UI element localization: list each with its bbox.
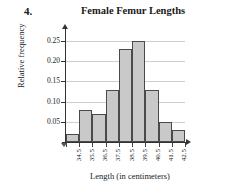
x-axis-tick-label: 41.5 — [168, 149, 175, 161]
chart-title: Female Femur Lengths — [58, 5, 208, 17]
y-axis-tick — [61, 81, 66, 82]
x-axis-title: Length (in centimeters) — [55, 172, 205, 181]
y-axis-tick-label: 0.25 — [34, 37, 60, 45]
histogram-bar — [172, 130, 185, 142]
y-axis-tick — [61, 61, 66, 62]
y-axis-tick-label: 0.15 — [34, 77, 60, 85]
x-axis-tick-label: 40.5 — [155, 149, 162, 161]
x-axis-tick-label: 42.5 — [181, 149, 188, 161]
x-axis-tick — [172, 143, 173, 147]
x-axis-tick — [92, 143, 93, 147]
x-axis-tick-label: 39.5 — [142, 149, 149, 161]
histogram-bar — [119, 49, 132, 142]
x-axis-tick-label: 35.5 — [89, 149, 96, 161]
y-axis-title: Relative frequency — [17, 24, 26, 88]
histogram-bar — [79, 110, 92, 142]
y-axis-tick-label: 0.20 — [34, 57, 60, 65]
y-axis-tick — [61, 122, 66, 123]
histogram-bar — [132, 41, 145, 142]
gridline — [66, 41, 185, 42]
x-axis-arrow-icon — [186, 139, 191, 145]
x-axis-tick — [132, 143, 133, 147]
x-axis-tick — [185, 143, 186, 147]
y-axis-tick — [61, 102, 66, 103]
histogram-bar — [92, 114, 105, 142]
x-axis-tick — [119, 143, 120, 147]
y-axis-tick-label: 0.05 — [34, 118, 60, 126]
x-axis-tick-label: 37.5 — [115, 149, 122, 161]
problem-number: 4. — [24, 6, 32, 17]
plot-area — [66, 33, 185, 142]
histogram-bar — [159, 122, 172, 142]
y-axis-tick — [61, 41, 66, 42]
histogram-figure: 4. Female Femur Lengths 0.050.100.150.20… — [0, 0, 228, 190]
x-axis-tick-label: 34.5 — [76, 149, 83, 161]
histogram-bar — [66, 134, 79, 142]
y-axis-tick-label: 0.10 — [34, 98, 60, 106]
x-axis-tick — [106, 143, 107, 147]
x-axis-tick — [159, 143, 160, 147]
x-axis-tick — [66, 143, 67, 147]
x-axis-tick — [145, 143, 146, 147]
y-axis-tick-labels: 0.050.100.150.200.25 — [32, 0, 60, 190]
histogram-bar — [106, 90, 119, 142]
x-axis-tick — [79, 143, 80, 147]
x-axis-tick-label: 38.5 — [129, 149, 136, 161]
x-axis-tick-label: 36.5 — [102, 149, 109, 161]
histogram-bar — [145, 90, 158, 142]
x-axis-line — [62, 142, 187, 143]
